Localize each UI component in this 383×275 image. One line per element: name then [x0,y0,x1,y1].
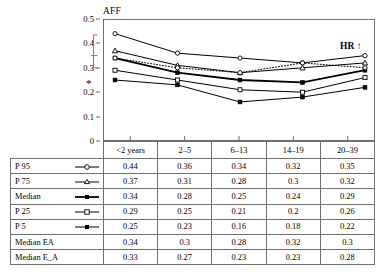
row-label: P 5 [11,219,71,234]
significance-asterisk: * [86,78,92,89]
legend-marker-open-triangle-icon [74,178,100,186]
table-cell: 0.28 [158,189,212,204]
table-cell: 0.27 [158,250,212,265]
table-cell: 0.16 [212,219,266,234]
table-row: P 950.440.360.340.320.35 [11,159,375,174]
row-label: Median EA [11,234,71,249]
row-legend-marker [71,250,104,265]
data-point-marker [363,76,367,80]
data-point-marker [363,54,367,58]
line-chart: AFF 00.10.20.30.40.5 * HR ↑ [0,0,383,145]
data-table: P 950.440.360.340.320.35P 750.370.310.28… [10,158,375,265]
table-cell: 0.37 [103,174,157,189]
table-cell: 0.25 [212,189,266,204]
table-row: Median0.340.280.250.240.29 [11,189,375,204]
legend-marker-open-circle-icon [74,163,100,171]
data-point-marker [238,56,242,60]
y-tick-label-5: 0.5 [83,14,94,24]
y-tick-mark-4 [96,43,100,44]
column-header-4: 20–39 [320,142,374,159]
column-header-3: 14–19 [266,142,320,159]
table-cell: 0.23 [158,219,212,234]
table-cell: 0.28 [320,250,374,265]
data-point-marker [175,66,179,70]
y-tick-label-3: 0.3 [83,63,94,73]
data-point-marker [363,85,367,89]
figure-root: AFF 00.10.20.30.40.5 * HR ↑ <2 years 2–5… [0,0,383,275]
hr-arrow-label: HR ↑ [340,41,361,51]
table-cell: 0.22 [320,219,374,234]
y-tick-mark-5 [96,19,100,20]
y-tick-mark-2 [96,92,100,93]
data-point-marker [301,90,305,94]
table-row: P 250.290.250.210.20.26 [11,204,375,219]
data-point-marker [363,66,367,70]
data-point-marker [176,83,180,87]
column-header-0: <2 years [104,142,158,159]
data-point-marker [238,78,242,82]
table-cell: 0.32 [320,174,374,189]
table-header-row: <2 years 2–5 6–13 14–19 20–39 [103,141,375,159]
column-header-2: 6–13 [212,142,266,159]
data-point-marker [238,71,242,75]
data-point-marker [300,61,304,65]
table-cell: 0.35 [320,159,374,174]
table-cell: 0.34 [103,234,157,249]
data-point-marker [301,95,305,99]
data-point-marker [176,71,180,75]
row-label: Median E_A [11,250,71,265]
y-axis: 00.10.20.30.40.5 [70,19,100,141]
table-cell: 0.21 [212,204,266,219]
table-cell: 0.3 [266,174,320,189]
row-label: P 25 [11,204,71,219]
y-tick-label-4: 0.4 [83,38,94,48]
y-tick-label-1: 0.1 [83,112,94,122]
table-cell: 0.33 [103,250,157,265]
data-point-marker [112,48,117,53]
legend-marker-filled-square-icon [74,193,100,201]
plot-series-layer [103,19,375,141]
table-cell: 0.26 [320,204,374,219]
table-cell: 0.34 [103,189,157,204]
row-label: Median [11,189,71,204]
data-point-marker [113,56,117,60]
table-row: <2 years 2–5 6–13 14–19 20–39 [104,142,375,159]
row-label: P 75 [11,174,71,189]
data-point-marker [176,78,180,82]
y-tick-label-0: 0 [90,136,94,146]
data-point-marker [113,68,117,72]
table-cell: 0.25 [103,219,157,234]
data-point-marker [175,51,179,55]
y-axis-title: AFF [103,6,121,16]
table-cell: 0.18 [266,219,320,234]
row-legend-marker [71,189,104,204]
row-legend-marker [71,219,104,234]
data-point-marker [238,88,242,92]
table-row: Median E_A0.330.270.230.230.28 [11,250,375,265]
row-label: P 95 [11,159,71,174]
data-point-marker [238,100,242,104]
row-legend-marker [71,174,104,189]
table-cell: 0.36 [158,159,212,174]
y-tick-mark-0 [96,141,100,142]
series-p-95 [113,32,367,65]
table-cell: 0.23 [212,250,266,265]
legend-marker-filled-square-icon [74,223,100,231]
data-point-marker [301,81,305,85]
table-cell: 0.29 [103,204,157,219]
table-cell: 0.32 [266,159,320,174]
table-cell: 0.34 [212,159,266,174]
table-cell: 0.28 [212,174,266,189]
table-cell: 0.32 [266,234,320,249]
table-cell: 0.24 [266,189,320,204]
table-cell: 0.3 [320,234,374,249]
table-cell: 0.31 [158,174,212,189]
table-cell: 0.44 [103,159,157,174]
legend-marker-open-square-icon [74,208,100,216]
row-legend-marker [71,159,104,174]
table-cell: 0.25 [158,204,212,219]
table-cell: 0.2 [266,204,320,219]
table-row: P 50.250.230.160.180.22 [11,219,375,234]
y-tick-mark-1 [96,116,100,117]
column-header-1: 2–5 [158,142,212,159]
